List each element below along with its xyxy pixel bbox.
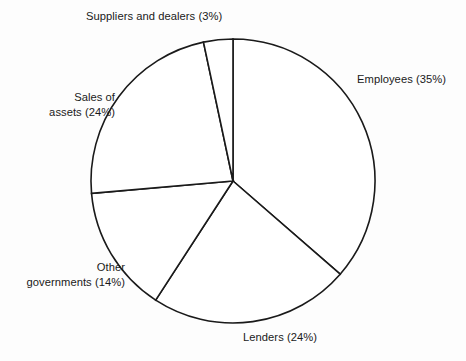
pie-chart-figure: Suppliers and dealers (3%) Employees (35… — [0, 0, 466, 361]
slice-label-line: assets (24%) — [49, 105, 115, 120]
slice-label-sales-of-assets: Sales of assets (24%) — [49, 90, 115, 119]
slice-label-lenders: Lenders (24%) — [243, 330, 317, 345]
slice-label-line: Lenders (24%) — [243, 330, 317, 345]
slice-label-line: Employees (35%) — [357, 72, 446, 87]
slice-label-line: Suppliers and dealers (3%) — [86, 9, 222, 24]
slice-label-other-governments: Other governments (14%) — [27, 260, 125, 289]
slice-label-suppliers-and-dealers: Suppliers and dealers (3%) — [86, 9, 222, 24]
pie-chart-graphic — [0, 0, 466, 361]
slice-label-employees: Employees (35%) — [357, 72, 446, 87]
slice-label-line: Sales of — [49, 90, 115, 105]
slice-label-line: governments (14%) — [27, 275, 125, 290]
slice-label-line: Other — [27, 260, 125, 275]
pie-slice-group — [91, 39, 375, 323]
